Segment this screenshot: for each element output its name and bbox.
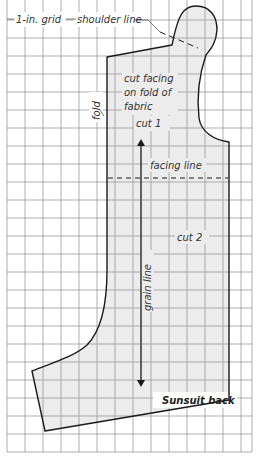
sunsuit-back-pattern-diagram: 1-in. grid shoulder line cut facing on f… bbox=[0, 0, 259, 461]
caption-sunsuit-back: Sunsuit back bbox=[162, 395, 236, 406]
grid-label: 1-in. grid bbox=[16, 14, 62, 25]
shoulder-line-label: shoulder line bbox=[77, 14, 142, 25]
cut-facing-label-3: fabric bbox=[124, 101, 153, 112]
cut-facing-label-1: cut facing bbox=[124, 73, 174, 84]
grain-line-label: grain line bbox=[142, 264, 153, 311]
cut-2-label: cut 2 bbox=[177, 232, 202, 243]
cut-1-label: cut 1 bbox=[136, 118, 161, 129]
cut-facing-label-2: on fold of bbox=[124, 87, 173, 98]
facing-line-label: facing line bbox=[150, 160, 202, 171]
fold-label: fold bbox=[91, 101, 102, 120]
